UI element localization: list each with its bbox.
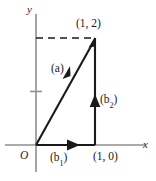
vector-b1-mid-arrow: [67, 140, 80, 151]
vector-b1-label-prefix: (b: [50, 151, 60, 163]
vector-b2-label: (b2): [100, 94, 117, 108]
vector-addition-figure: y x O (1, 2) (1, 0) (a) (b1) (b2): [0, 0, 156, 181]
vector-b2-label-suffix: ): [114, 93, 118, 105]
point-label-1-0: (1, 0): [93, 151, 118, 163]
vector-b1-label-subscript: 1: [60, 159, 64, 168]
y-axis-label: y: [27, 4, 32, 15]
vector-b1-label: (b1): [50, 152, 67, 166]
point-label-1-2: (1, 2): [76, 18, 101, 30]
vector-a-label: (a): [51, 63, 64, 75]
vector-b1-label-suffix: ): [64, 151, 68, 163]
vector-b2-label-subscript: 2: [110, 101, 114, 110]
x-axis-label: x: [143, 139, 148, 150]
origin-label: O: [20, 150, 28, 162]
vector-b2-mid-arrow: [90, 94, 101, 107]
vector-b2-label-prefix: (b: [100, 93, 110, 105]
vector-a-line: [36, 39, 95, 145]
